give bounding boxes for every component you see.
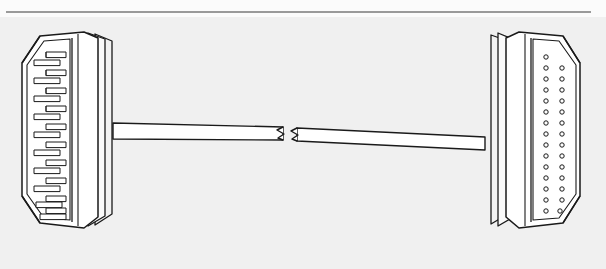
figure-page: [0, 0, 606, 269]
hole-column-inner: [544, 55, 548, 213]
female-scart-connector: [491, 32, 580, 228]
cable-run: [113, 123, 485, 150]
male-scart-connector: [22, 32, 112, 228]
scart-cable-drawing: [0, 0, 606, 269]
